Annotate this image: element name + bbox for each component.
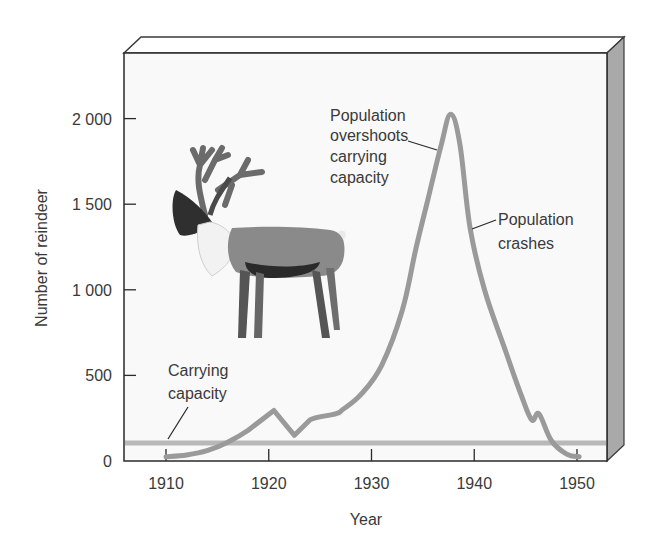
x-axis-title: Year (350, 511, 383, 528)
x-tick-label: 1930 (354, 475, 390, 492)
y-axis-title: Number of reindeer (33, 188, 50, 327)
annotation-overshoots-line3: carrying (330, 148, 387, 165)
box-top-face (124, 37, 624, 53)
x-tick-label: 1940 (456, 475, 492, 492)
annotation-overshoots-line1: Population (330, 107, 406, 124)
annotation-cc-line2: capacity (168, 385, 227, 402)
y-tick-label: 2 000 (72, 111, 112, 128)
y-tick-label: 500 (85, 367, 112, 384)
annotation-overshoots-line4: capacity (330, 169, 389, 186)
annotation-cc-line1: Carrying (168, 362, 228, 379)
y-tick-label: 1 500 (72, 196, 112, 213)
annotation-overshoots-line2: overshoots (330, 127, 408, 144)
box-right-face (607, 37, 624, 461)
x-tick-label: 1910 (148, 475, 184, 492)
x-tick-label: 1950 (559, 475, 595, 492)
annotation-crashes-line2: crashes (498, 235, 554, 252)
x-tick-label: 1920 (251, 475, 287, 492)
y-tick-label: 1 000 (72, 282, 112, 299)
reindeer-population-chart: 05001 0001 5002 000 19101920193019401950… (0, 0, 651, 546)
annotation-crashes-line1: Population (498, 211, 574, 228)
y-tick-label: 0 (103, 453, 112, 470)
